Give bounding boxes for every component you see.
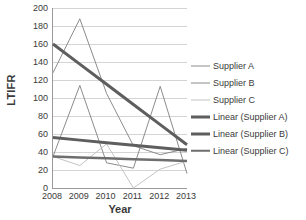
y-tick-label: 120	[24, 76, 48, 85]
legend-label: Linear (Supplier A)	[213, 112, 288, 122]
legend-item[interactable]: Linear (Supplier A)	[191, 108, 306, 125]
x-tick-label: 2009	[64, 191, 94, 201]
x-tick-label: 2012	[144, 191, 174, 201]
legend-label: Supplier C	[213, 95, 255, 105]
y-tick-label: 80	[24, 112, 48, 121]
legend-item[interactable]: Supplier A	[191, 57, 306, 74]
chart-container: LTIFR 020406080100120140160180200 200820…	[0, 0, 306, 220]
legend-swatch-icon	[191, 112, 210, 122]
legend-label: Supplier B	[213, 78, 255, 88]
legend-item[interactable]: Supplier B	[191, 74, 306, 91]
legend-swatch-icon	[191, 61, 210, 71]
y-axis-title: LTIFR	[5, 55, 17, 125]
legend-item[interactable]: Linear (Supplier B)	[191, 125, 306, 142]
y-tick-label: 180	[24, 22, 48, 31]
legend-swatch-icon	[191, 146, 210, 156]
plot-area	[52, 8, 187, 189]
x-axis-title: Year	[52, 203, 188, 215]
y-tick-label: 60	[24, 130, 48, 139]
y-tick-label: 20	[24, 166, 48, 175]
legend-label: Linear (Supplier B)	[213, 129, 288, 139]
y-tick-label: 100	[24, 94, 48, 103]
x-tick-label: 2008	[37, 191, 67, 201]
series-lines	[53, 8, 187, 188]
x-tick-label: 2010	[91, 191, 121, 201]
y-tick-label: 40	[24, 148, 48, 157]
y-axis-tick-labels: 020406080100120140160180200	[24, 8, 48, 188]
series-line	[53, 138, 187, 151]
legend-item[interactable]: Linear (Supplier C)	[191, 142, 306, 159]
legend-item[interactable]: Supplier C	[191, 91, 306, 108]
series-line	[53, 144, 187, 188]
x-tick-label: 2013	[171, 191, 201, 201]
y-tick-label: 160	[24, 40, 48, 49]
x-tick-label: 2011	[117, 191, 147, 201]
y-tick-label: 200	[24, 4, 48, 13]
series-line	[53, 157, 187, 162]
series-line	[53, 19, 187, 155]
legend-swatch-icon	[191, 129, 210, 139]
legend-label: Supplier A	[213, 61, 254, 71]
y-tick-label: 140	[24, 58, 48, 67]
gridline	[53, 188, 187, 189]
legend-swatch-icon	[191, 78, 210, 88]
legend-label: Linear (Supplier C)	[213, 146, 289, 156]
chart-legend: Supplier ASupplier BSupplier CLinear (Su…	[191, 57, 306, 159]
legend-swatch-icon	[191, 95, 210, 105]
series-line	[53, 44, 187, 145]
